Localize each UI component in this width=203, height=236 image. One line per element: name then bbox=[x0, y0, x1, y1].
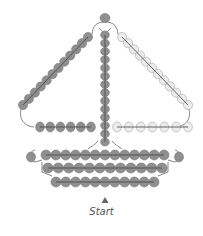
start-label: Start bbox=[0, 206, 203, 217]
sailboat-bead-diagram bbox=[0, 0, 203, 236]
triangle-up-icon bbox=[102, 197, 109, 203]
hull-end-bead bbox=[27, 152, 36, 162]
top-bead bbox=[100, 14, 110, 23]
hull-end-bead bbox=[175, 152, 184, 162]
beads bbox=[18, 14, 192, 188]
